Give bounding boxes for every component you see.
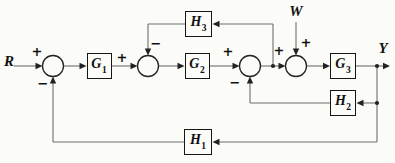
block-g2: G2 xyxy=(185,53,210,79)
wire-segments xyxy=(14,22,384,142)
arrow-into-h3 xyxy=(213,21,220,27)
block-g1-symbol: G xyxy=(91,56,101,71)
block-h3-subscript: 3 xyxy=(202,24,207,34)
sum2-feedback-sign: − xyxy=(150,37,162,51)
input-signal-label: R xyxy=(1,53,17,69)
sum2-circle xyxy=(138,56,159,77)
block-h3: H3 xyxy=(185,11,212,37)
block-g1-label: G1 xyxy=(91,57,106,74)
sum1-feedback-sign: − xyxy=(37,77,49,91)
sum2-input-sign: + xyxy=(116,51,128,65)
arrow-into-g3 xyxy=(323,63,330,69)
sum3-circle xyxy=(240,56,261,77)
disturbance-signal-label: W xyxy=(288,3,304,19)
arrow-into-h2 xyxy=(357,100,364,106)
arrow-into-sum4 xyxy=(279,63,286,69)
block-h3-symbol: H xyxy=(190,14,201,29)
node-branch-to-h2 xyxy=(375,101,379,105)
block-h2-subscript: 2 xyxy=(346,103,351,113)
block-g1: G1 xyxy=(87,53,112,79)
block-g2-symbol: G xyxy=(189,56,199,71)
arrow-into-h1 xyxy=(213,139,220,145)
block-h1-symbol: H xyxy=(190,132,201,147)
arrow-h1-into-sum1 xyxy=(50,77,56,84)
arrow-into-sum1 xyxy=(36,63,43,69)
block-h2: H2 xyxy=(330,90,356,116)
block-g2-subscript: 2 xyxy=(200,66,205,76)
arrowheads xyxy=(36,21,391,145)
arrow-w-into-sum4 xyxy=(293,49,299,56)
output-signal-label: Y xyxy=(375,40,391,56)
sum4-disturbance-sign: + xyxy=(300,36,312,50)
block-g3-symbol: G xyxy=(335,56,345,71)
arrow-into-g2 xyxy=(178,63,185,69)
block-g3: G3 xyxy=(330,53,356,79)
block-h2-symbol: H xyxy=(335,93,346,108)
arrow-into-sum3 xyxy=(233,63,240,69)
arrow-into-sum2 xyxy=(131,63,138,69)
sum4-circle xyxy=(286,56,307,77)
node-output-branch xyxy=(375,64,379,68)
arrow-h2-into-sum3 xyxy=(247,77,253,84)
arrow-into-g1 xyxy=(80,63,87,69)
block-g1-subscript: 1 xyxy=(102,66,107,76)
block-g2-label: G2 xyxy=(189,57,204,74)
sum1-input-sign: + xyxy=(31,45,43,59)
block-g3-label: G3 xyxy=(335,57,350,74)
sum3-input-sign: + xyxy=(222,45,234,59)
block-h2-label: H2 xyxy=(335,94,351,111)
block-h3-label: H3 xyxy=(190,15,206,32)
node-branch-to-h3 xyxy=(271,64,275,68)
sum3-feedback-sign: − xyxy=(229,76,241,90)
sum4-input-sign: + xyxy=(273,44,285,58)
block-g3-subscript: 3 xyxy=(346,66,351,76)
block-h1-subscript: 1 xyxy=(201,142,206,152)
block-h1: H1 xyxy=(184,129,212,155)
feedback-control-block-diagram: G1 G2 G3 H3 H2 H1 + − + − + − + + R W Y xyxy=(0,0,395,163)
sum1-circle xyxy=(43,56,64,77)
block-h1-label: H1 xyxy=(190,133,206,150)
arrow-output-y xyxy=(383,63,390,69)
